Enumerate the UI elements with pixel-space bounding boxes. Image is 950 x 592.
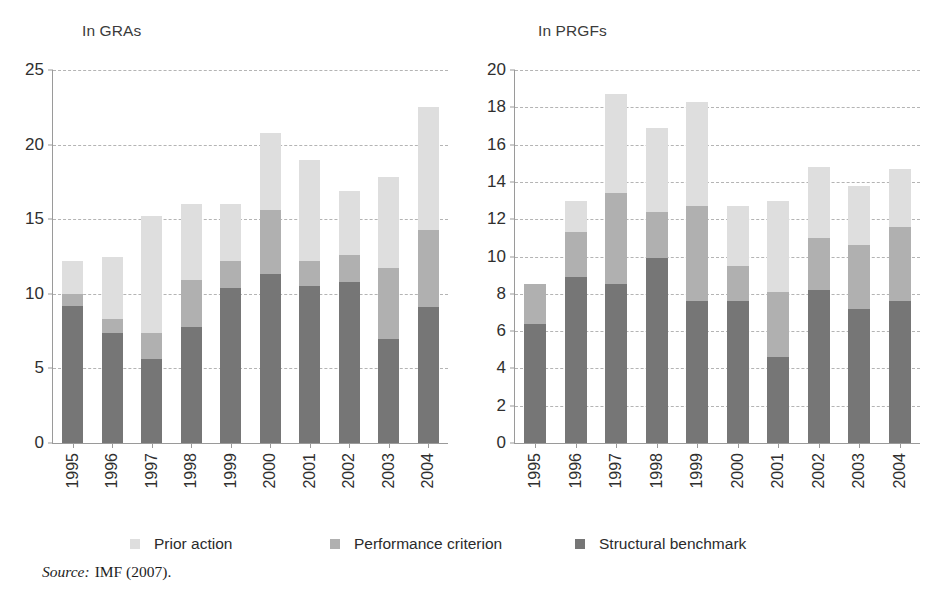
bar-segment[interactable] bbox=[181, 280, 202, 326]
bar-segment[interactable] bbox=[565, 201, 587, 233]
x-axis-tick-mark bbox=[152, 443, 153, 448]
x-axis-tick-label: 2004 bbox=[419, 453, 437, 489]
bar-segment[interactable] bbox=[339, 191, 360, 255]
bar-segment[interactable] bbox=[102, 257, 123, 320]
bar-segment[interactable] bbox=[418, 307, 439, 443]
chart-legend: Prior action Performance criterion Struc… bbox=[0, 533, 950, 559]
bar-segment[interactable] bbox=[808, 290, 830, 443]
bar-segment[interactable] bbox=[181, 204, 202, 280]
bar-segment[interactable] bbox=[62, 261, 83, 294]
stacked-bar[interactable] bbox=[339, 191, 360, 443]
bar-segment[interactable] bbox=[767, 292, 789, 357]
bar-segment[interactable] bbox=[339, 255, 360, 282]
bar-segment[interactable] bbox=[686, 301, 708, 443]
bar-segment[interactable] bbox=[848, 186, 870, 246]
bar-segment[interactable] bbox=[565, 232, 587, 277]
stacked-bar[interactable] bbox=[62, 261, 83, 443]
bar-segment[interactable] bbox=[646, 258, 668, 443]
bar-segment[interactable] bbox=[339, 282, 360, 443]
bar-segment[interactable] bbox=[808, 167, 830, 238]
bar-segment[interactable] bbox=[646, 212, 668, 259]
bar-segment[interactable] bbox=[220, 261, 241, 288]
bar-slot: 1999 bbox=[677, 70, 718, 443]
bar-segment[interactable] bbox=[727, 266, 749, 301]
bar-segment[interactable] bbox=[646, 128, 668, 212]
x-axis-tick-label: 1998 bbox=[648, 453, 666, 489]
bar-segment[interactable] bbox=[141, 333, 162, 360]
stacked-bar[interactable] bbox=[767, 201, 789, 443]
bar-segment[interactable] bbox=[686, 206, 708, 301]
y-axis-tick-label: 20 bbox=[25, 135, 53, 155]
bar-segment[interactable] bbox=[220, 288, 241, 443]
bar-slot: 2000 bbox=[718, 70, 759, 443]
stacked-bar[interactable] bbox=[565, 201, 587, 443]
stacked-bar[interactable] bbox=[848, 186, 870, 443]
x-axis-tick-label: 1995 bbox=[64, 453, 82, 489]
bar-segment[interactable] bbox=[686, 102, 708, 206]
bar-slot: 2004 bbox=[409, 70, 449, 443]
bar-segment[interactable] bbox=[299, 286, 320, 443]
stacked-bar[interactable] bbox=[181, 204, 202, 443]
bar-segment[interactable] bbox=[767, 201, 789, 292]
stacked-bar[interactable] bbox=[418, 107, 439, 443]
bar-segment[interactable] bbox=[524, 284, 546, 323]
stacked-bar[interactable] bbox=[141, 216, 162, 443]
bar-segment[interactable] bbox=[605, 284, 627, 443]
bar-segment[interactable] bbox=[141, 216, 162, 332]
bar-segment[interactable] bbox=[260, 210, 281, 274]
bar-segment[interactable] bbox=[378, 339, 399, 443]
bar-segment[interactable] bbox=[62, 294, 83, 306]
bar-segment[interactable] bbox=[299, 261, 320, 286]
stacked-bar[interactable] bbox=[299, 160, 320, 443]
source-label: Source: bbox=[42, 563, 90, 580]
bar-slot: 1997 bbox=[596, 70, 637, 443]
legend-label-performance-criterion: Performance criterion bbox=[354, 535, 502, 553]
stacked-bar[interactable] bbox=[378, 177, 399, 443]
bar-segment[interactable] bbox=[848, 245, 870, 308]
plot-area-gras: 0510152025199519961997199819992000200120… bbox=[52, 70, 448, 444]
x-axis-tick-label: 2004 bbox=[891, 453, 909, 489]
bar-segment[interactable] bbox=[181, 327, 202, 443]
stacked-bar[interactable] bbox=[260, 133, 281, 443]
bar-segment[interactable] bbox=[565, 277, 587, 443]
bar-segment[interactable] bbox=[418, 107, 439, 229]
stacked-bar[interactable] bbox=[889, 169, 911, 443]
stacked-bar[interactable] bbox=[808, 167, 830, 443]
bar-segment[interactable] bbox=[889, 169, 911, 227]
bar-slot: 2000 bbox=[251, 70, 291, 443]
stacked-bar[interactable] bbox=[102, 257, 123, 443]
stacked-bar[interactable] bbox=[727, 206, 749, 443]
bar-segment[interactable] bbox=[260, 133, 281, 211]
bar-segment[interactable] bbox=[605, 193, 627, 284]
y-axis-tick-label: 4 bbox=[497, 358, 515, 378]
bar-segment[interactable] bbox=[889, 301, 911, 443]
bar-segment[interactable] bbox=[727, 301, 749, 443]
bar-segment[interactable] bbox=[848, 309, 870, 443]
stacked-bar[interactable] bbox=[605, 94, 627, 443]
stacked-bar[interactable] bbox=[686, 102, 708, 443]
bar-segment[interactable] bbox=[299, 160, 320, 261]
bar-segment[interactable] bbox=[605, 94, 627, 193]
bar-segment[interactable] bbox=[102, 333, 123, 443]
stacked-bar[interactable] bbox=[524, 284, 546, 443]
legend-item-performance-criterion: Performance criterion bbox=[330, 535, 502, 553]
bar-segment[interactable] bbox=[141, 359, 162, 443]
bar-segment[interactable] bbox=[62, 306, 83, 443]
stacked-bar[interactable] bbox=[220, 204, 241, 443]
bar-slot: 1999 bbox=[211, 70, 251, 443]
bar-segment[interactable] bbox=[524, 324, 546, 443]
bar-segment[interactable] bbox=[220, 204, 241, 261]
bar-segment[interactable] bbox=[378, 268, 399, 338]
bar-segment[interactable] bbox=[102, 319, 123, 332]
bar-segment[interactable] bbox=[260, 274, 281, 443]
bar-segment[interactable] bbox=[808, 238, 830, 290]
bar-segment[interactable] bbox=[889, 227, 911, 302]
bar-segment[interactable] bbox=[418, 230, 439, 308]
x-axis-tick-label: 2003 bbox=[380, 453, 398, 489]
bar-segment[interactable] bbox=[378, 177, 399, 268]
stacked-bar[interactable] bbox=[646, 128, 668, 443]
y-axis-tick-label: 12 bbox=[487, 209, 515, 229]
bar-segment[interactable] bbox=[727, 206, 749, 266]
x-axis-tick-mark bbox=[900, 443, 901, 448]
bar-segment[interactable] bbox=[767, 357, 789, 443]
